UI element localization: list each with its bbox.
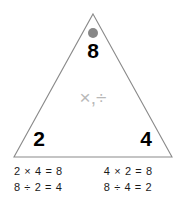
equation-column-left: 2 × 4 = 8 8 ÷ 2 = 4 — [14, 164, 63, 196]
triangle-left-factor-number: 2 — [24, 128, 54, 149]
triangle-product-number: 8 — [78, 40, 108, 61]
equation-line: 8 ÷ 4 = 2 — [104, 180, 153, 196]
equations-area: 2 × 4 = 8 8 ÷ 2 = 4 4 × 2 = 8 8 ÷ 4 = 2 — [0, 164, 185, 196]
triangle-operators-label: ×,÷ — [58, 88, 128, 107]
apex-marker-dot-icon — [88, 28, 98, 38]
equation-line: 2 × 4 = 8 — [14, 164, 63, 180]
equation-line: 8 ÷ 2 = 4 — [14, 180, 63, 196]
triangle-right-factor-number: 4 — [131, 128, 161, 149]
equation-line: 4 × 2 = 8 — [104, 164, 153, 180]
fact-family-triangle-figure: 8 ×,÷ 2 4 2 × 4 = 8 8 ÷ 2 = 4 4 × 2 = 8 … — [0, 0, 185, 201]
equation-column-right: 4 × 2 = 8 8 ÷ 4 = 2 — [104, 164, 153, 196]
